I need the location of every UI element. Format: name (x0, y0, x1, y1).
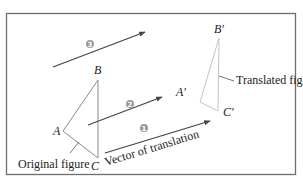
vertex-a-prime-label: A′ (175, 85, 186, 99)
svg-text:3: 3 (88, 41, 93, 49)
vertex-b-label: B (94, 63, 102, 77)
vertex-a-label: A (52, 124, 61, 138)
translation-diagram: 3 2 1 Vector of translation A B C A′ B′ … (0, 0, 303, 184)
translated-figure-label: Translated figure (236, 73, 303, 87)
original-figure-label: Original figure (18, 157, 90, 171)
vertex-b-prime-label: B′ (214, 22, 224, 36)
vertex-c-prime-label: C′ (223, 105, 234, 119)
svg-text:1: 1 (142, 125, 147, 133)
svg-text:2: 2 (128, 101, 133, 109)
vertex-c-label: C (91, 159, 100, 173)
